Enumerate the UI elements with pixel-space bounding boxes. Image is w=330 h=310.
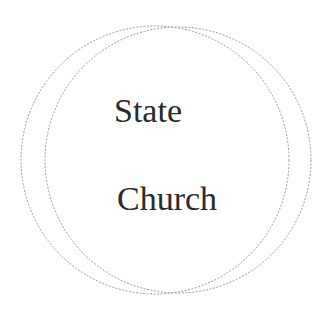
venn-diagram: [0, 0, 330, 310]
right-circle: [45, 27, 311, 293]
label-state: State: [114, 94, 182, 128]
left-circle: [21, 26, 289, 294]
label-church: Church: [117, 182, 217, 216]
